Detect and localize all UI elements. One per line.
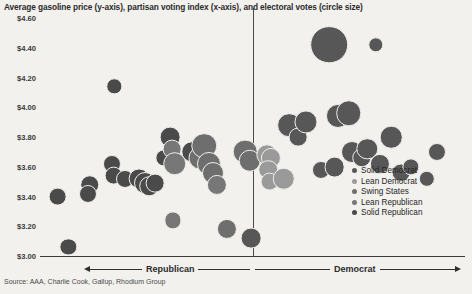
center-divider-line (253, 8, 254, 256)
axis-rule-left (90, 269, 142, 270)
chart-title: Average gasoline price (y-axis), partisa… (4, 2, 363, 12)
legend-item[interactable]: Lean Republican (352, 198, 422, 207)
data-bubble (295, 111, 318, 134)
y-axis-tick-label: $3.20 (17, 222, 36, 231)
axis-rule-right2 (380, 269, 455, 270)
legend-item[interactable]: Lean Democrat (352, 177, 422, 186)
legend-marker-icon (352, 210, 357, 215)
y-axis-tick-label: $4.20 (17, 73, 36, 82)
data-bubble (207, 175, 227, 195)
republican-axis-half: Republican (84, 262, 250, 276)
democrat-axis-half: Democrat (255, 262, 461, 276)
legend-label: Lean Republican (361, 198, 422, 207)
y-axis-tick-label: $3.00 (17, 252, 36, 261)
data-bubble (165, 212, 182, 229)
axis-rule-left2 (198, 269, 250, 270)
axis-label-republican: Republican (142, 264, 199, 274)
data-bubble (48, 187, 67, 206)
y-axis-tick-label: $4.00 (17, 103, 36, 112)
legend-marker-icon (352, 189, 357, 194)
data-bubble (380, 126, 403, 149)
data-bubble (324, 156, 345, 177)
y-axis-tick-label: $3.60 (17, 162, 36, 171)
data-bubble (79, 184, 97, 202)
data-bubble (368, 37, 383, 52)
data-bubble (145, 174, 164, 193)
data-bubble (60, 238, 77, 255)
legend: Solid DemocratLean DemocratSwing StatesL… (352, 166, 422, 217)
x-axis-baseline (40, 256, 465, 257)
legend-marker-icon (352, 200, 357, 205)
legend-label: Solid Republican (361, 208, 422, 217)
data-bubble (217, 219, 237, 239)
arrow-right-icon (455, 266, 461, 272)
x-axis-labels: Republican Democrat (40, 262, 465, 276)
data-bubble (107, 79, 122, 94)
data-bubble (336, 100, 362, 126)
legend-marker-icon (352, 179, 357, 184)
y-axis-tick-label: $4.60 (17, 14, 36, 23)
y-axis-tick-label: $3.40 (17, 192, 36, 201)
y-axis-tick-label: $3.80 (17, 133, 36, 142)
legend-item[interactable]: Solid Democrat (352, 166, 422, 175)
legend-marker-icon (352, 168, 357, 173)
plot-area: $4.60$4.40$4.20$4.00$3.80$3.60$3.40$3.20… (40, 18, 465, 256)
axis-rule-right (255, 269, 330, 270)
data-bubble (428, 143, 446, 161)
data-bubble (241, 228, 262, 249)
y-axis-tick-label: $4.40 (17, 43, 36, 52)
data-bubble (310, 26, 348, 64)
legend-label: Solid Democrat (361, 166, 417, 175)
legend-item[interactable]: Swing States (352, 187, 422, 196)
legend-label: Lean Democrat (361, 177, 417, 186)
legend-label: Swing States (361, 187, 409, 196)
data-bubble (272, 167, 295, 190)
legend-item[interactable]: Solid Republican (352, 208, 422, 217)
source-note: Source: AAA, Charlie Cook, Gallup, Rhodi… (4, 278, 165, 285)
axis-label-democrat: Democrat (330, 264, 380, 274)
